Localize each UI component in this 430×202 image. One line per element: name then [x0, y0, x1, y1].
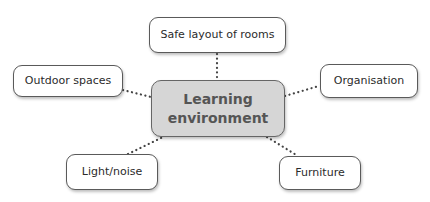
node-label: Furniture — [295, 167, 344, 180]
node-label: Outdoor spaces — [25, 75, 111, 88]
connector-furniture — [267, 137, 298, 156]
node-organisation: Organisation — [320, 64, 418, 98]
node-label: Organisation — [334, 75, 404, 88]
node-light-noise: Light/noise — [66, 154, 158, 190]
node-furniture: Furniture — [279, 156, 361, 190]
center-label-line1: Learning — [183, 90, 253, 109]
connector-light-noise — [128, 137, 163, 154]
node-safe-layout-of-rooms: Safe layout of rooms — [149, 17, 286, 53]
connector-outdoor — [123, 90, 151, 97]
node-label: Safe layout of rooms — [161, 29, 275, 42]
node-learning-environment: Learning environment — [151, 80, 285, 137]
node-label: Light/noise — [82, 166, 142, 179]
node-outdoor-spaces: Outdoor spaces — [13, 65, 123, 97]
center-label-line2: environment — [168, 109, 269, 128]
connector-organisation — [285, 86, 319, 96]
